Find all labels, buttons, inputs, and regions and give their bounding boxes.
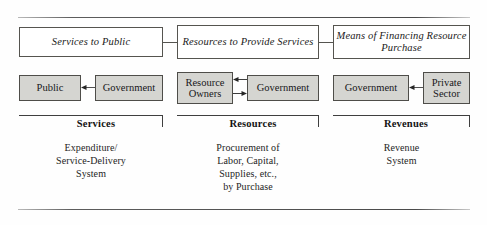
group-caption-services: Expenditure/ Service-Delivery System [19, 141, 163, 180]
caption-line: Expenditure/ [19, 141, 163, 154]
concept-box-label-line1: Means of Financing [337, 30, 424, 41]
actor-box-label-line1: Resource [185, 77, 224, 88]
actor-box-label: Government [103, 82, 156, 94]
actor-box-label-line2: Sector [433, 88, 460, 99]
concept-box-resources-to-provide-services: Resources to Provide Services [177, 25, 319, 59]
top-horizontal-rule [18, 17, 470, 18]
caption-line: by Purchase [177, 180, 319, 193]
arrow-resource-owners-to-government [233, 90, 247, 97]
actor-box-public: Public [19, 75, 81, 101]
connector-line-1 [163, 42, 177, 43]
caption-line: Procurement of [177, 141, 319, 154]
actor-box-government-3: Government [333, 75, 409, 101]
caption-line: System [333, 154, 470, 167]
arrow-government-to-resource-owners [233, 76, 247, 83]
connector-line-2 [319, 42, 333, 43]
actor-box-private-sector: Private Sector [423, 72, 470, 104]
concept-box-label: Services to Public [52, 36, 131, 49]
caption-line: System [19, 167, 163, 180]
concept-box-means-of-financing: Means of Financing Resource Purchase [333, 25, 470, 59]
actor-box-label: Government [257, 82, 310, 94]
bottom-horizontal-rule [18, 209, 470, 210]
arrow-private-sector-to-government [409, 84, 423, 91]
actor-box-label-line2: Owners [189, 88, 222, 99]
diagram-canvas: Services to Public Resources to Provide … [0, 0, 487, 225]
bracket-end-tick [162, 115, 163, 127]
bracket-horizontal-line [333, 115, 470, 116]
actor-box-government-1: Government [95, 75, 163, 101]
group-heading-revenues: Revenues [356, 118, 456, 130]
caption-line: Labor, Capital, [177, 154, 319, 167]
caption-line: Service-Delivery [19, 154, 163, 167]
actor-box-government-2: Government [247, 75, 319, 101]
caption-line: Revenue [333, 141, 470, 154]
caption-line: Supplies, etc., [177, 167, 319, 180]
bracket-end-tick [469, 115, 470, 127]
concept-box-label-line1: Resources to [183, 36, 238, 47]
concept-box-label-line2: Provide Services [241, 36, 314, 47]
actor-box-label: Government [345, 82, 398, 94]
actor-box-label: Public [37, 82, 64, 94]
group-heading-resources: Resources [203, 118, 303, 130]
bracket-horizontal-line [19, 115, 163, 116]
arrow-government-to-public [81, 84, 95, 91]
actor-box-label-line1: Private [432, 77, 462, 88]
bracket-horizontal-line [177, 115, 319, 116]
actor-box-resource-owners: Resource Owners [177, 72, 233, 104]
group-caption-revenues: Revenue System [333, 141, 470, 167]
group-heading-services: Services [46, 118, 146, 130]
concept-box-services-to-public: Services to Public [19, 27, 163, 57]
group-caption-resources: Procurement of Labor, Capital, Supplies,… [177, 141, 319, 193]
bracket-end-tick [318, 115, 319, 127]
